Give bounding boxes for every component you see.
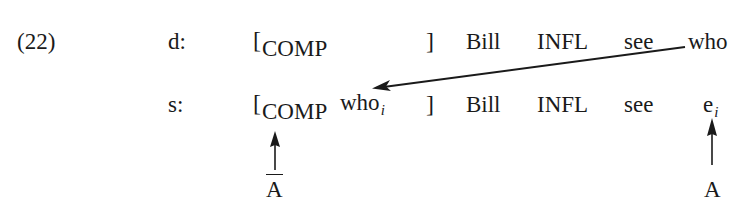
a-bar-arrowhead-icon — [270, 131, 280, 147]
movement-arrow — [372, 47, 685, 91]
a-arrowhead-icon — [707, 118, 717, 136]
a-position-arrow — [707, 118, 717, 165]
a-bar-position-arrow — [270, 131, 280, 170]
arrows-overlay — [0, 0, 755, 206]
